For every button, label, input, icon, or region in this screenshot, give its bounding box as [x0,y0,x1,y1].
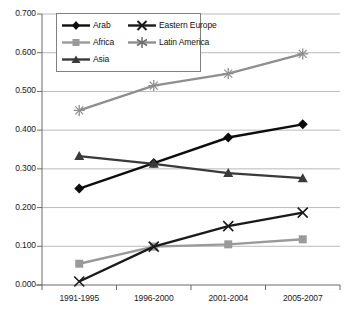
legend-item-eastern-europe[interactable]: Eastern Europe [127,18,217,32]
legend-label-asia: Asia [93,54,109,64]
y-axis-tick-label: 0.500 [2,85,36,95]
x-axis-tick-label: 2001-2004 [188,293,268,303]
legend-item-africa[interactable]: Africa [61,35,114,49]
legend-marker-x-icon [127,19,157,32]
y-axis-tick-label: 0.400 [2,124,36,134]
legend-label-africa: Africa [93,37,114,47]
legend-label-eastern-europe: Eastern Europe [159,20,217,30]
x-axis-tick-label: 2005-2007 [263,293,343,303]
legend-item-arab[interactable]: Arab [61,18,111,32]
legend-marker-square-icon [61,36,91,49]
series-layer [74,48,309,286]
x-axis-tick-label: 1991-1995 [39,293,119,303]
y-axis-tick-label: 0.100 [2,240,36,250]
legend-item-latin-america[interactable]: Latin America [127,35,209,49]
y-axis-tick-label: 0.600 [2,47,36,57]
legend-label-latin-america: Latin America [159,37,209,47]
legend-marker-star-icon [127,36,157,49]
legend-item-asia[interactable]: Asia [61,52,109,66]
y-axis-tick-label: 0.200 [2,202,36,212]
y-axis-tick-label: 0.300 [2,163,36,173]
x-axis-tick-label: 1996-2000 [114,293,194,303]
legend-marker-triangle-icon [61,53,91,66]
legend-label-arab: Arab [93,20,111,30]
y-axis-tick-label: 0.000 [2,279,36,289]
y-axis-tick-label: 0.700 [2,8,36,18]
legend: Arab Eastern Europe Africa [56,13,201,72]
line-chart: 0.7000.6000.5000.4000.3000.2000.1000.000… [0,0,349,319]
legend-marker-diamond-icon [61,19,91,32]
